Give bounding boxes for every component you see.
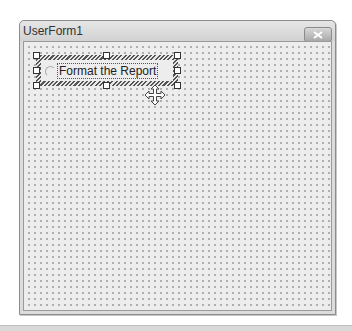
move-cursor-icon — [144, 84, 166, 106]
resize-handle-sw[interactable] — [33, 82, 40, 89]
userform-window[interactable]: UserForm1 Format the Report — [19, 20, 336, 315]
resize-handle-w[interactable] — [33, 67, 40, 74]
option-button-caption[interactable]: Format the Report — [57, 63, 158, 79]
resize-handle-n[interactable] — [103, 52, 110, 59]
resize-handle-s[interactable] — [103, 82, 110, 89]
resize-handle-se[interactable] — [174, 82, 181, 89]
window-title: UserForm1 — [23, 24, 83, 38]
form-design-grid[interactable]: Format the Report — [23, 41, 332, 311]
bottom-divider — [0, 325, 352, 331]
title-bar[interactable]: UserForm1 — [20, 21, 335, 41]
close-x-icon — [313, 31, 323, 39]
close-button[interactable] — [304, 27, 332, 42]
resize-handle-ne[interactable] — [174, 52, 181, 59]
resize-handle-nw[interactable] — [33, 52, 40, 59]
radio-circle-icon — [45, 66, 56, 77]
resize-handle-e[interactable] — [174, 67, 181, 74]
